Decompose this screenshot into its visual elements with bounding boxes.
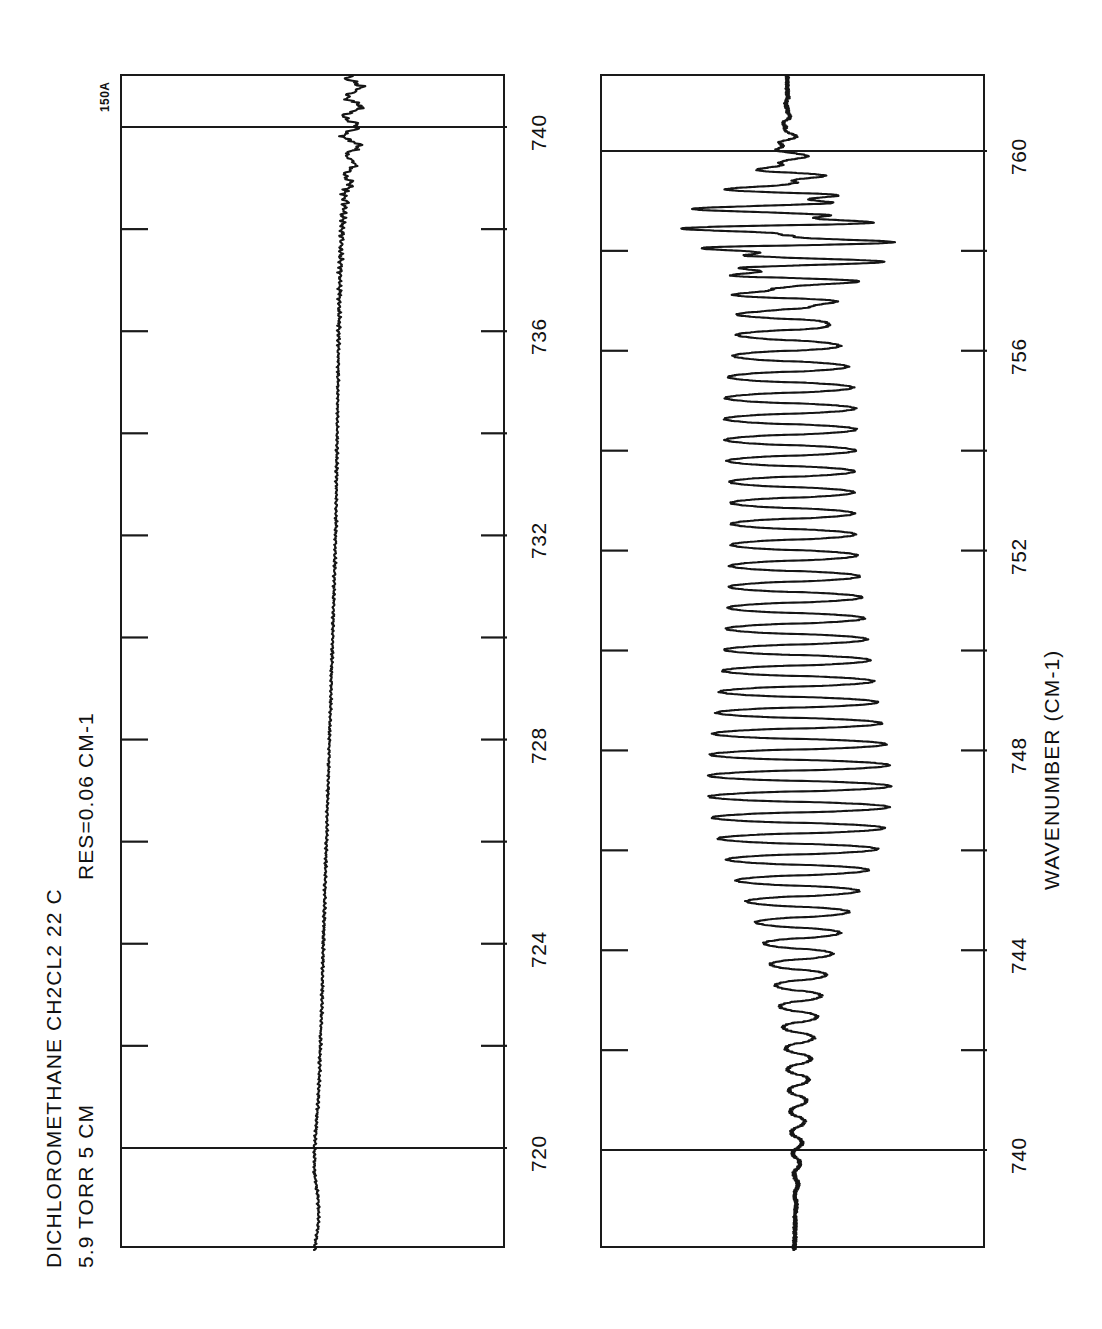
tick-bottom-760: 760 [1007,138,1031,175]
tick-bottom-752: 752 [1007,538,1031,575]
header-resolution: RES=0.06 CM-1 [74,712,98,880]
header-line-conditions: 5.9 TORR 5 CM [74,1104,98,1268]
tick-bottom-744: 744 [1007,937,1031,974]
tick-top-720: 720 [527,1135,551,1172]
tick-top-740: 740 [527,114,551,151]
spectrum-panel-top [120,74,505,1248]
tick-top-728: 728 [527,727,551,764]
tick-top-724: 724 [527,931,551,968]
spectrum-panel-bottom [600,74,985,1248]
spectrum-sheet: DICHLOROMETHANE CH2CL2 22 C 5.9 TORR 5 C… [0,0,1102,1329]
x-axis-title: WAVENUMBER (CM-1) [1040,650,1064,890]
chart-id-tag: 150A [98,82,112,112]
tick-top-732: 732 [527,523,551,560]
header-line-sample: DICHLOROMETHANE CH2CL2 22 C [42,888,66,1268]
tick-bottom-740: 740 [1007,1137,1031,1174]
spectrum-plot-top [122,76,507,1250]
spectrum-plot-bottom [602,76,987,1250]
tick-bottom-756: 756 [1007,338,1031,375]
tick-bottom-748: 748 [1007,738,1031,775]
tick-top-736: 736 [527,318,551,355]
